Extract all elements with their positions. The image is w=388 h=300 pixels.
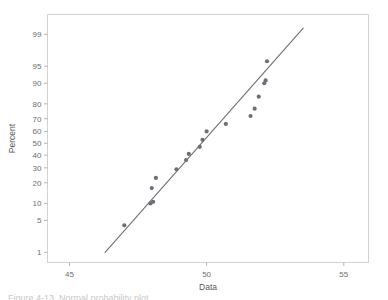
y-tick-label: 5 — [37, 216, 42, 225]
y-tick-label: 80 — [33, 100, 42, 109]
data-point — [150, 186, 154, 190]
data-point — [253, 107, 257, 111]
data-point — [224, 122, 228, 126]
y-tick-label: 60 — [33, 127, 42, 136]
y-axis-title: Percent — [7, 123, 17, 153]
data-point — [205, 129, 209, 133]
x-axis-title: Data — [199, 282, 217, 292]
data-point — [198, 145, 202, 149]
data-point — [122, 223, 126, 227]
x-tick-label: 45 — [65, 270, 74, 279]
y-tick-label: 95 — [33, 62, 42, 71]
data-point — [264, 78, 268, 82]
y-tick-label: 10 — [33, 199, 42, 208]
figure-caption: Figure 4-13. Normal probability plot — [8, 294, 380, 300]
data-point — [265, 59, 269, 63]
y-tick-label: 70 — [33, 115, 42, 124]
data-point — [174, 167, 178, 171]
x-tick-label: 55 — [339, 270, 348, 279]
data-point — [151, 200, 155, 204]
data-point — [257, 95, 261, 99]
normal-probability-plot-figure: 151020304050607080909599455055DataPercen… — [0, 0, 388, 300]
data-points — [122, 59, 269, 227]
x-tick-label: 50 — [202, 270, 211, 279]
y-tick-label: 1 — [37, 248, 42, 257]
data-point — [200, 138, 204, 142]
y-tick-label: 40 — [33, 151, 42, 160]
y-tick-label: 20 — [33, 179, 42, 188]
y-tick-label: 99 — [33, 30, 42, 39]
y-tick-label: 90 — [33, 79, 42, 88]
data-point — [184, 158, 188, 162]
plot-frame — [48, 15, 369, 263]
data-point — [187, 152, 191, 156]
data-point — [248, 114, 252, 118]
y-tick-label: 30 — [33, 164, 42, 173]
data-point — [154, 176, 158, 180]
y-axis: 151020304050607080909599 — [33, 30, 48, 257]
y-tick-label: 50 — [33, 139, 42, 148]
chart-canvas: 151020304050607080909599455055DataPercen… — [0, 0, 388, 300]
x-axis: 455055 — [65, 263, 349, 279]
